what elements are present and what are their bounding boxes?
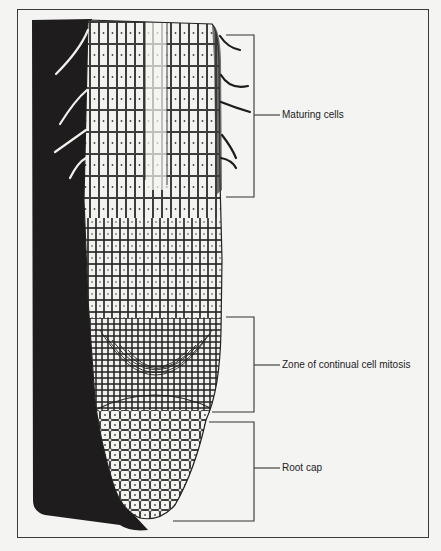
label-root-cap: Root cap	[282, 462, 322, 474]
label-cell-mitosis-zone: Zone of continual cell mitosis	[282, 359, 410, 371]
label-maturing-cells: Maturing cells	[282, 109, 344, 121]
root-hairs-right	[220, 36, 250, 168]
root-tip-illustration	[0, 0, 441, 551]
